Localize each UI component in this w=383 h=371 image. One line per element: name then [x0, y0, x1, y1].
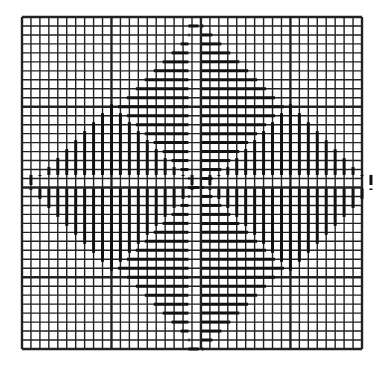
- grid-diamond-figure: [0, 0, 383, 371]
